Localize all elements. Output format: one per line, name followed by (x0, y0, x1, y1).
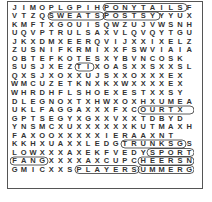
grid-cell[interactable]: G (185, 165, 194, 174)
grid-cell[interactable]: T (166, 106, 175, 115)
grid-cell[interactable]: U (10, 106, 19, 115)
grid-cell[interactable]: D (102, 140, 111, 149)
grid-cell[interactable]: S (47, 12, 56, 21)
grid-cell[interactable]: N (38, 46, 47, 55)
grid-cell[interactable]: G (56, 106, 65, 115)
grid-cell[interactable]: R (157, 106, 166, 115)
grid-cell[interactable]: X (148, 88, 157, 97)
grid-cell[interactable]: X (120, 123, 129, 132)
grid-cell[interactable]: K (19, 140, 28, 149)
grid-cell[interactable]: D (38, 88, 47, 97)
grid-cell[interactable]: T (120, 140, 129, 149)
grid-cell[interactable]: T (84, 12, 93, 21)
grid-cell[interactable]: R (28, 88, 37, 97)
grid-cell[interactable]: X (38, 140, 47, 149)
grid-cell[interactable]: Y (157, 29, 166, 38)
grid-cell[interactable]: T (19, 12, 28, 21)
grid-cell[interactable]: U (10, 29, 19, 38)
grid-cell[interactable]: E (111, 165, 120, 174)
grid-cell[interactable]: S (166, 88, 175, 97)
grid-cell[interactable]: U (65, 29, 74, 38)
grid-cell[interactable]: X (84, 123, 93, 132)
grid-cell[interactable]: M (148, 165, 157, 174)
grid-cell[interactable]: Q (148, 29, 157, 38)
grid-cell[interactable]: U (19, 46, 28, 55)
grid-cell[interactable]: X (47, 165, 56, 174)
grid-cell[interactable]: S (84, 29, 93, 38)
grid-cell[interactable]: M (84, 46, 93, 55)
grid-cell[interactable]: X (157, 88, 166, 97)
grid-cell[interactable]: F (120, 46, 129, 55)
grid-cell[interactable]: R (56, 29, 65, 38)
grid-cell[interactable]: X (111, 88, 120, 97)
grid-cell[interactable]: S (28, 46, 37, 55)
grid-cell[interactable]: A (74, 12, 83, 21)
grid-cell[interactable]: R (129, 140, 138, 149)
grid-cell[interactable]: E (166, 165, 175, 174)
grid-cell[interactable]: S (185, 140, 194, 149)
grid-cell[interactable]: V (10, 12, 19, 21)
grid-cell[interactable]: S (129, 46, 138, 55)
grid-cell[interactable]: X (102, 46, 111, 55)
grid-cell[interactable]: C (129, 106, 138, 115)
grid-cell[interactable]: X (56, 165, 65, 174)
grid-cell[interactable]: L (65, 88, 74, 97)
grid-cell[interactable]: M (19, 165, 28, 174)
grid-cell[interactable]: X (111, 46, 120, 55)
grid-cell[interactable]: H (185, 123, 194, 132)
grid-cell[interactable]: S (65, 165, 74, 174)
grid-cell[interactable]: A (47, 106, 56, 115)
grid-cell[interactable]: V (139, 29, 148, 38)
grid-cell[interactable]: U (148, 106, 157, 115)
grid-cell[interactable]: I (47, 46, 56, 55)
grid-cell[interactable]: X (175, 123, 184, 132)
grid-cell[interactable]: G (10, 165, 19, 174)
grid-cell[interactable]: E (120, 88, 129, 97)
grid-cell[interactable]: I (28, 165, 37, 174)
grid-cell[interactable]: Y (175, 88, 184, 97)
grid-cell[interactable]: N (19, 123, 28, 132)
grid-cell[interactable]: L (185, 63, 194, 72)
grid-cell[interactable]: G (175, 140, 184, 149)
grid-cell[interactable]: W (139, 46, 148, 55)
grid-cell[interactable]: X (102, 123, 111, 132)
grid-cell[interactable]: K (19, 106, 28, 115)
grid-cell[interactable]: M (157, 165, 166, 174)
grid-cell[interactable]: X (102, 29, 111, 38)
grid-cell[interactable]: X (175, 106, 184, 115)
grid-cell[interactable]: Q (129, 29, 138, 38)
grid-cell[interactable]: A (93, 165, 102, 174)
grid-cell[interactable] (185, 106, 194, 115)
grid-cell[interactable]: T (139, 88, 148, 97)
grid-cell[interactable]: P (102, 12, 111, 21)
grid-cell[interactable]: S (28, 123, 37, 132)
grid-cell[interactable]: T (148, 123, 157, 132)
grid-cell[interactable]: X (102, 106, 111, 115)
grid-cell[interactable]: X (93, 106, 102, 115)
grid-cell[interactable]: H (28, 140, 37, 149)
grid-cell[interactable]: S (93, 12, 102, 21)
grid-cell[interactable]: S (120, 12, 129, 21)
grid-cell[interactable]: O (139, 106, 148, 115)
grid-cell[interactable]: Y (157, 12, 166, 21)
grid-cell[interactable]: L (84, 140, 93, 149)
grid-cell[interactable]: Y (148, 12, 157, 21)
grid-cell[interactable]: L (84, 165, 93, 174)
grid-cell[interactable]: H (47, 88, 56, 97)
grid-cell[interactable]: S (166, 140, 175, 149)
grid-cell[interactable]: R (74, 46, 83, 55)
grid-cell[interactable]: A (74, 106, 83, 115)
grid-cell[interactable]: T (47, 29, 56, 38)
grid-cell[interactable]: F (56, 88, 65, 97)
grid-cell[interactable]: L (120, 29, 129, 38)
grid-cell[interactable]: U (47, 140, 56, 149)
grid-cell[interactable] (185, 80, 194, 89)
grid-cell[interactable]: U (65, 123, 74, 132)
grid-cell[interactable]: I (93, 46, 102, 55)
grid-cell[interactable]: V (148, 46, 157, 55)
grid-cell[interactable]: V (111, 29, 120, 38)
grid-cell[interactable]: P (38, 29, 47, 38)
grid-cell[interactable]: E (93, 140, 102, 149)
grid-cell[interactable]: S (139, 12, 148, 21)
grid-cell[interactable]: W (56, 12, 65, 21)
